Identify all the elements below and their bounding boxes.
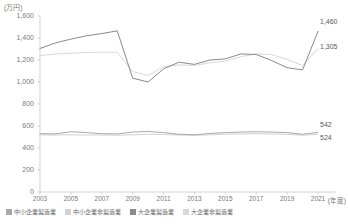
legend-label: 中小企業製造業 (14, 209, 56, 215)
legend-item-3[interactable]: 大企業製造業 (130, 209, 174, 215)
data-point-label: 1,305 (320, 43, 338, 50)
chart-container: (万円) (年度) 02004006008001,0001,2001,4001,… (0, 0, 348, 224)
legend-swatch-icon (65, 209, 71, 215)
data-point-label: 524 (320, 134, 332, 141)
legend-item-2[interactable]: 中小企業非製造業 (65, 209, 121, 215)
chart-plot-area (0, 0, 348, 224)
legend-label: 中小企業非製造業 (73, 209, 121, 215)
legend-item-4[interactable]: 大企業非製造業 (183, 209, 233, 215)
legend-label: 大企業製造業 (138, 209, 174, 215)
legend-swatch-icon (130, 209, 136, 215)
chart-legend: 中小企業製造業中小企業非製造業大企業製造業大企業非製造業 (6, 209, 233, 215)
data-point-label: 542 (320, 121, 332, 128)
legend-item-1[interactable]: 中小企業製造業 (6, 209, 56, 215)
data-point-label: 1,460 (320, 18, 338, 25)
legend-label: 大企業非製造業 (191, 209, 233, 215)
legend-swatch-icon (183, 209, 189, 215)
legend-swatch-icon (6, 209, 12, 215)
